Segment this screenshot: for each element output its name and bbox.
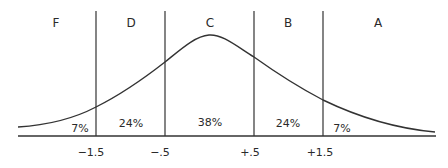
- grade-label-c: C: [206, 16, 214, 30]
- grade-label-f: F: [53, 16, 60, 30]
- percent-label-f: 7%: [71, 122, 88, 135]
- percent-label-c: 38%: [198, 116, 222, 129]
- tick-label-plus-0-5: +.5: [240, 146, 260, 159]
- normal-curve: [18, 35, 435, 132]
- tick-label-plus-1-5: +1.5: [307, 146, 334, 159]
- grade-label-d: D: [126, 16, 135, 30]
- percent-label-b: 24%: [276, 117, 300, 130]
- percent-label-d: 24%: [119, 117, 143, 130]
- grade-label-b: B: [284, 16, 292, 30]
- tick-label-minus-1-5: −1.5: [78, 146, 105, 159]
- percent-label-a: 7%: [333, 122, 350, 135]
- grade-label-a: A: [374, 16, 382, 30]
- tick-label-minus-0-5: −.5: [150, 146, 170, 159]
